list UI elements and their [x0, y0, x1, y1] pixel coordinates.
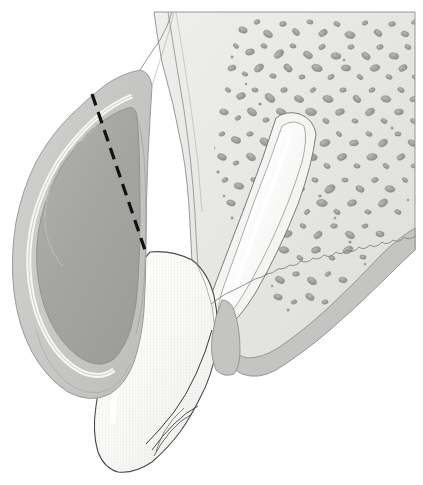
illustration-canvas: Dental cross-section: impacted tooth wit…: [0, 0, 423, 485]
dental-cross-section-illustration: Dental cross-section: impacted tooth wit…: [0, 0, 423, 485]
